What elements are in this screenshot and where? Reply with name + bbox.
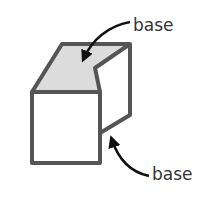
bottom-arrow-icon xyxy=(112,140,149,176)
front-face xyxy=(32,92,100,163)
bottom-base-label: base xyxy=(152,164,193,184)
top-base-label: base xyxy=(133,15,174,35)
top-base-face xyxy=(32,44,130,92)
prism-diagram: base base xyxy=(0,0,212,207)
